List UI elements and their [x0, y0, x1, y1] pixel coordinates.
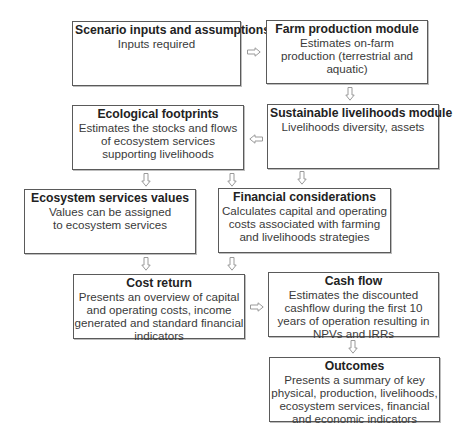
- box-title: Cash flow: [271, 275, 436, 288]
- box-cost-return: Cost return Presents an overview of capi…: [73, 274, 245, 339]
- arrow-down-icon: [345, 87, 355, 101]
- box-title: Outcomes: [272, 360, 437, 373]
- arrow-down-icon: [348, 340, 358, 354]
- box-description: Presents a summary of key physical, prod…: [270, 373, 439, 425]
- box-title: Ecosystem services values: [27, 192, 193, 205]
- box-sustainable-livelihoods: Sustainable livelihoods module Livelihoo…: [267, 104, 439, 169]
- arrow-down-icon: [141, 257, 151, 271]
- box-ecological-footprints: Ecological footprints Estimates the stoc…: [72, 105, 244, 170]
- box-title: Ecological footprints: [75, 108, 241, 121]
- box-farm-production: Farm production module Estimates on-farm…: [266, 20, 428, 84]
- box-title: Cost return: [76, 277, 242, 290]
- box-ecosystem-services-values: Ecosystem services values Values can be …: [24, 189, 196, 254]
- box-description: Presents an overview of capital and oper…: [74, 290, 244, 342]
- arrow-down-icon: [227, 173, 237, 187]
- arrow-down-icon: [141, 173, 151, 187]
- arrow-down-icon: [297, 171, 307, 185]
- box-title: Financial considerations: [221, 191, 388, 204]
- box-cash-flow: Cash flow Estimates the discounted cashf…: [268, 272, 439, 337]
- box-title: Farm production module: [269, 23, 425, 36]
- arrow-right-icon: [250, 302, 264, 312]
- box-description: Estimates the discounted cashflow during…: [269, 288, 438, 340]
- box-description: Inputs required: [75, 37, 238, 50]
- box-description: Calculates capital and operating costs a…: [221, 204, 388, 243]
- box-description: Livelihoods diversity, assets: [270, 120, 436, 133]
- box-scenario-inputs: Scenario inputs and assumptions Inputs r…: [72, 21, 241, 86]
- box-outcomes: Outcomes Presents a summary of key physi…: [269, 357, 440, 422]
- box-description: Estimates on-farm production (terrestria…: [269, 36, 425, 75]
- box-title: Sustainable livelihoods module: [270, 107, 436, 120]
- arrow-right-icon: [247, 47, 261, 57]
- box-description: Values can be assigned to ecosystem serv…: [27, 205, 193, 231]
- box-title: Scenario inputs and assumptions: [75, 24, 238, 37]
- box-description: Estimates the stocks and flows of ecosys…: [75, 121, 241, 160]
- arrow-down-icon: [227, 257, 237, 271]
- box-financial-considerations: Financial considerations Calculates capi…: [218, 188, 391, 253]
- arrow-left-icon: [249, 134, 263, 144]
